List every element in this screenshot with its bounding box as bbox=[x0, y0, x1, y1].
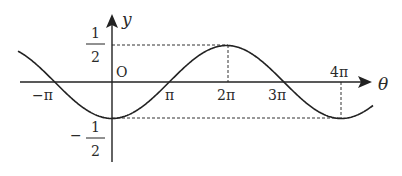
tick-2pi: 2π bbox=[217, 87, 235, 103]
neg-half-denominator: 2 bbox=[91, 143, 100, 159]
y-tick-neg-half: − 1 2 bbox=[70, 119, 105, 159]
tick-pi: π bbox=[165, 87, 174, 103]
y-axis-label: y bbox=[121, 9, 132, 29]
tick-neg-pi: −π bbox=[32, 87, 53, 103]
neg-half-numerator: 1 bbox=[91, 119, 100, 135]
tick-4pi: 4π bbox=[330, 64, 348, 80]
x-axis-label: θ bbox=[378, 74, 388, 94]
half-numerator: 1 bbox=[91, 25, 100, 41]
origin-label: O bbox=[116, 64, 127, 80]
neg-half-sign: − bbox=[70, 127, 82, 143]
tick-3pi: 3π bbox=[268, 87, 286, 103]
half-denominator: 2 bbox=[91, 49, 100, 65]
cosine-graph: y θ O −π π 2π 3π 4π 1 2 − 1 2 bbox=[0, 0, 402, 176]
y-tick-half: 1 2 bbox=[86, 25, 105, 65]
